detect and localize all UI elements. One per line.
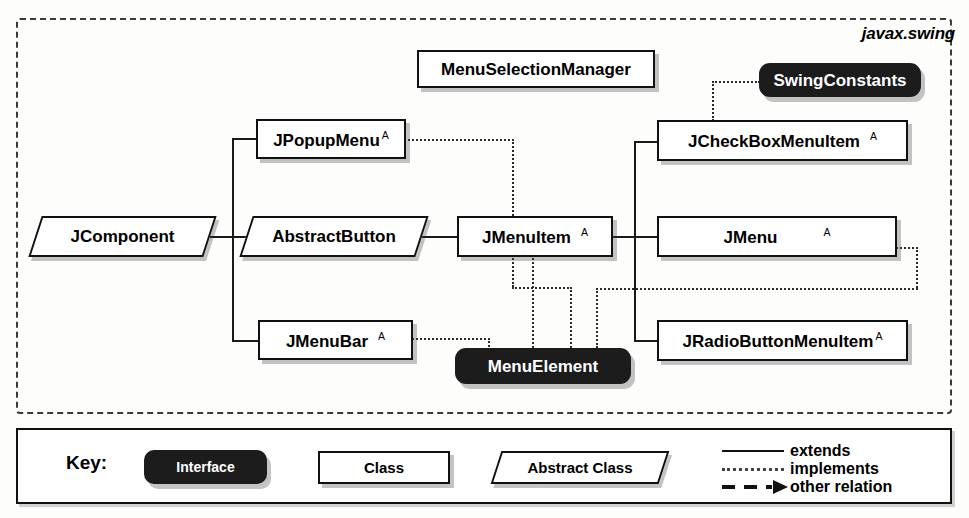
node-jmenuitem[interactable]: JMenuItemA (457, 216, 613, 257)
abstract-marker: A (875, 330, 882, 342)
node-jpopupmenu-label: JPopupMenuA (273, 130, 389, 149)
node-jradiobuttonmenuitem-label: JRadioButtonMenuItemA (683, 331, 883, 350)
node-abstractbutton[interactable]: AbstractButton (246, 216, 422, 257)
abstract-marker: A (823, 226, 830, 238)
edge-jmenu-menuelement-v2 (596, 288, 598, 348)
node-jmenuitem-label: JMenuItemA (482, 227, 588, 246)
edge-jcomponent-trunk (232, 138, 234, 342)
legend-implements-label: implements (790, 460, 879, 478)
edge-jmenuitem-trunk (634, 141, 636, 340)
package-label: javax.swing (862, 24, 955, 44)
uml-class-diagram: javax.swing JComponent JPopupMenuA (0, 0, 969, 518)
node-abstractbutton-label: AbstractButton (272, 228, 396, 245)
edge-jmenu-menuelement-v (916, 247, 918, 288)
edge-jcheckboxmenuitem-swingconstants-h (712, 81, 760, 83)
node-jpopupmenu[interactable]: JPopupMenuA (256, 119, 406, 159)
legend-row-extends: extends (718, 442, 958, 459)
edge-jmenu-menuelement-h1 (896, 247, 918, 249)
legend-class-label: Class (364, 459, 404, 476)
node-swingconstants-label: SwingConstants (773, 72, 906, 89)
edge-jmenuitem-menuelement (532, 258, 534, 348)
node-jcheckboxmenuitem[interactable]: JCheckBoxMenuItemA (657, 120, 908, 161)
edge-jmenuitem-jradiobuttonmenuitem (634, 340, 658, 342)
edge-jmenuitem-jmenu (634, 236, 658, 238)
abstract-marker: A (382, 129, 389, 141)
edge-jmenubar-menuelement-h (412, 338, 490, 340)
legend-title: Key: (66, 452, 107, 474)
node-jradiobuttonmenuitem[interactable]: JRadioButtonMenuItemA (657, 320, 908, 361)
abstract-marker: A (378, 330, 385, 342)
edge-abstractbutton-jmenuitem (418, 236, 458, 238)
legend-interface-swatch: Interface (144, 450, 267, 484)
edge-jmenu-menuelement-h2 (596, 288, 918, 290)
legend-abstract-class-label: Abstract Class (527, 459, 632, 476)
node-menuelement-label: MenuElement (488, 358, 599, 375)
legend-interface-label: Interface (176, 459, 234, 475)
dashed-arrow-icon (718, 481, 790, 493)
node-menuselectionmanager[interactable]: MenuSelectionManager (417, 50, 655, 88)
node-jmenubar[interactable]: JMenuBarA (258, 320, 413, 360)
node-jmenubar-label: JMenuBarA (286, 331, 385, 350)
node-jcheckboxmenuitem-label: JCheckBoxMenuItemA (688, 131, 877, 150)
legend-abstract-class-swatch: Abstract Class (496, 451, 664, 484)
dotted-line-icon (718, 463, 790, 475)
node-jcomponent-label: JComponent (71, 228, 175, 245)
edge-jcomponent-jmenubar (232, 340, 260, 342)
edge-jpopupmenu-menuelement-h1 (404, 139, 514, 141)
abstract-marker: A (870, 130, 877, 142)
node-jmenu-label: JMenuA (724, 227, 831, 246)
edge-jcheckboxmenuitem-swingconstants-v (712, 81, 714, 121)
legend-row-implements: implements (718, 460, 958, 477)
edge-jpopupmenu-menuelement-v (512, 139, 514, 287)
legend-line-styles: extends implements other relation (718, 442, 958, 496)
node-swingconstants[interactable]: SwingConstants (759, 63, 921, 97)
legend-other-relation-label: other relation (790, 478, 892, 496)
edge-jpopupmenu-menuelement-h2 (512, 287, 572, 289)
legend-extends-label: extends (790, 442, 850, 460)
node-jmenu[interactable]: JMenuA (657, 216, 897, 257)
legend-class-swatch: Class (318, 451, 450, 484)
legend-panel: Key: Interface Class Abstract Class exte… (16, 428, 952, 504)
edge-jpopupmenu-menuelement-v2 (570, 287, 572, 348)
legend-row-other-relation: other relation (718, 478, 958, 495)
node-menuselectionmanager-label: MenuSelectionManager (441, 61, 631, 78)
edge-jmenuitem-jcheckboxmenuitem (634, 141, 658, 143)
solid-line-icon (718, 445, 790, 457)
abstract-marker: A (581, 226, 588, 238)
node-jcomponent[interactable]: JComponent (35, 216, 210, 257)
node-menuelement[interactable]: MenuElement (455, 348, 631, 384)
edge-jcomponent-jpopupmenu (232, 138, 258, 140)
